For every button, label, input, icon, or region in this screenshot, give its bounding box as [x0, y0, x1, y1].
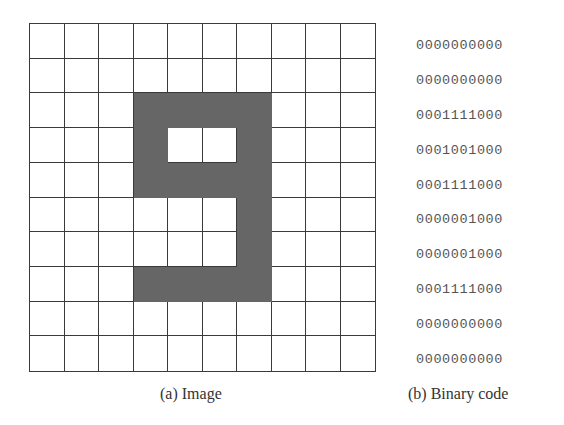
pixel-empty — [272, 93, 307, 128]
pixel-empty — [306, 302, 341, 337]
pixel-empty — [30, 267, 65, 302]
pixel-empty — [65, 128, 100, 163]
pixel-empty — [168, 59, 203, 94]
pixel-empty — [134, 302, 169, 337]
pixel-empty — [65, 24, 100, 59]
pixel-empty — [65, 163, 100, 198]
pixel-empty — [134, 336, 169, 371]
pixel-empty — [237, 24, 272, 59]
pixel-empty — [30, 302, 65, 337]
pixel-filled — [237, 198, 272, 233]
pixel-empty — [30, 198, 65, 233]
pixel-empty — [203, 232, 238, 267]
pixel-empty — [272, 24, 307, 59]
pixel-empty — [341, 198, 376, 233]
pixel-empty — [30, 336, 65, 371]
pixel-empty — [203, 336, 238, 371]
pixel-empty — [272, 336, 307, 371]
binary-row: 0000000000 — [416, 350, 503, 385]
pixel-empty — [203, 59, 238, 94]
pixel-empty — [306, 336, 341, 371]
pixel-empty — [168, 302, 203, 337]
pixel-filled — [237, 267, 272, 302]
binary-row: 0001111000 — [416, 280, 503, 315]
binary-row: 0000000000 — [416, 71, 503, 106]
pixel-empty — [65, 59, 100, 94]
pixel-empty — [203, 198, 238, 233]
pixel-empty — [341, 128, 376, 163]
binary-row: 0001111000 — [416, 176, 503, 211]
pixel-empty — [99, 336, 134, 371]
pixel-empty — [341, 163, 376, 198]
pixel-empty — [341, 232, 376, 267]
pixel-filled — [237, 93, 272, 128]
pixel-empty — [65, 198, 100, 233]
pixel-empty — [99, 302, 134, 337]
binary-row: 0000001000 — [416, 210, 503, 245]
pixel-empty — [341, 336, 376, 371]
pixel-empty — [65, 302, 100, 337]
pixel-empty — [168, 336, 203, 371]
pixel-empty — [99, 93, 134, 128]
pixel-empty — [306, 59, 341, 94]
pixel-empty — [306, 128, 341, 163]
pixel-filled — [237, 163, 272, 198]
binary-row: 0000001000 — [416, 245, 503, 280]
pixel-grid-image — [29, 23, 376, 372]
pixel-empty — [134, 24, 169, 59]
pixel-empty — [306, 198, 341, 233]
pixel-empty — [65, 267, 100, 302]
pixel-filled — [203, 163, 238, 198]
pixel-empty — [341, 24, 376, 59]
pixel-empty — [272, 59, 307, 94]
pixel-empty — [306, 163, 341, 198]
binary-code-caption: (b) Binary code — [408, 385, 508, 403]
pixel-filled — [203, 267, 238, 302]
pixel-empty — [237, 59, 272, 94]
binary-row: 0000000000 — [416, 315, 503, 350]
pixel-filled — [168, 163, 203, 198]
pixel-empty — [134, 59, 169, 94]
pixel-empty — [306, 93, 341, 128]
pixel-filled — [168, 93, 203, 128]
image-caption: (a) Image — [160, 385, 222, 403]
pixel-empty — [30, 59, 65, 94]
pixel-empty — [237, 336, 272, 371]
pixel-filled — [203, 93, 238, 128]
binary-row: 0000000000 — [416, 36, 503, 71]
pixel-empty — [30, 24, 65, 59]
pixel-empty — [134, 198, 169, 233]
pixel-empty — [272, 163, 307, 198]
pixel-filled — [134, 267, 169, 302]
pixel-empty — [237, 302, 272, 337]
pixel-filled — [134, 163, 169, 198]
binary-code-list: 0000000000 0000000000 0001111000 0001001… — [416, 36, 503, 385]
pixel-empty — [30, 128, 65, 163]
pixel-empty — [341, 93, 376, 128]
pixel-empty — [168, 24, 203, 59]
pixel-empty — [65, 336, 100, 371]
pixel-filled — [134, 93, 169, 128]
pixel-empty — [341, 267, 376, 302]
pixel-empty — [99, 198, 134, 233]
pixel-empty — [99, 267, 134, 302]
pixel-filled — [134, 128, 169, 163]
pixel-empty — [30, 163, 65, 198]
pixel-empty — [306, 232, 341, 267]
pixel-empty — [272, 302, 307, 337]
pixel-empty — [168, 128, 203, 163]
pixel-empty — [203, 128, 238, 163]
pixel-empty — [306, 24, 341, 59]
binary-row: 0001001000 — [416, 141, 503, 176]
pixel-empty — [65, 232, 100, 267]
pixel-filled — [168, 267, 203, 302]
pixel-empty — [99, 24, 134, 59]
pixel-filled — [237, 232, 272, 267]
pixel-empty — [30, 93, 65, 128]
pixel-empty — [203, 302, 238, 337]
pixel-empty — [99, 232, 134, 267]
pixel-filled — [237, 128, 272, 163]
pixel-empty — [168, 232, 203, 267]
pixel-empty — [272, 128, 307, 163]
pixel-empty — [272, 267, 307, 302]
